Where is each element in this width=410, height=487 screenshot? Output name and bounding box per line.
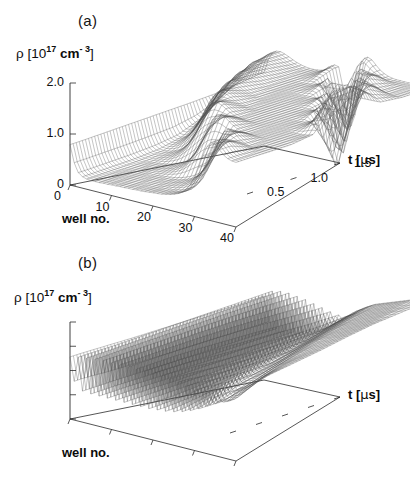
panel-a-x-tick-0: 0 xyxy=(54,189,61,203)
panel-a-z-tick-0: 2.0 xyxy=(30,75,64,89)
t-close: s] xyxy=(369,387,381,402)
t-close: s] xyxy=(369,152,381,167)
mu-symbol: μ xyxy=(360,152,368,167)
panel-a-x-tick-4: 40 xyxy=(220,231,234,245)
panel-a-t-axis-title: t [μs] xyxy=(348,152,380,167)
panel-a: (a) ρ [1017 cm- 3] 2.01.00 010203040 1.5… xyxy=(0,0,410,243)
t-open: t [ xyxy=(348,152,360,167)
mu-symbol: μ xyxy=(360,387,368,402)
panel-a-x-axis-title: well no. xyxy=(62,211,110,226)
panel-a-x-tick-2: 20 xyxy=(137,210,151,224)
panel-b-x-axis-title: well no. xyxy=(62,445,110,460)
panel-a-z-tick-1: 1.0 xyxy=(30,126,64,140)
panel-a-plot xyxy=(0,0,410,243)
panel-a-x-tick-3: 30 xyxy=(179,221,193,235)
panel-a-t-tick-2: 0.5 xyxy=(267,185,284,199)
t-open: t [ xyxy=(348,387,360,402)
panel-a-t-tick-1: 1.0 xyxy=(311,171,328,185)
panel-b-t-axis-title: t [μs] xyxy=(348,387,380,402)
panel-b: (b) ρ [1017 cm- 3] 1.51.00.50-0.5 010203… xyxy=(0,244,410,487)
